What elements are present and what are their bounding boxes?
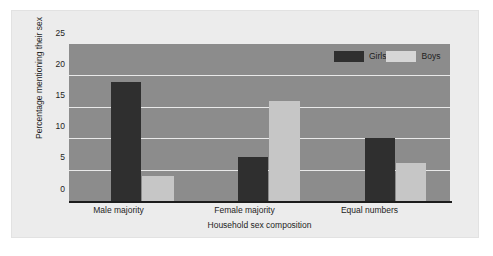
gridline-20 [69,75,450,76]
y-tick-20: 20 [43,60,65,69]
legend-label-boys: Boys [421,51,440,61]
plot-area: Girls Boys [69,44,450,201]
x-tick-equal-numbers: Equal numbers [322,205,417,215]
bar-boys-female-majority [269,101,300,201]
legend-swatch-girls [334,51,364,62]
chart-legend: Girls Boys [334,48,440,64]
legend-swatch-boys [386,51,416,62]
y-tick-10: 10 [43,122,65,131]
bar-girls-equal-numbers [365,138,395,201]
bar-girls-female-majority [238,157,268,201]
bar-boys-equal-numbers [396,163,426,201]
legend-label-girls: Girls [369,51,386,61]
legend-entry-boys: Boys [386,48,440,64]
legend-entry-girls: Girls [334,48,386,64]
bar-boys-male-majority [142,176,174,201]
y-tick-25: 25 [43,29,65,38]
chart-figure: Percentage mentioning their sex 0 5 10 1… [0,0,493,256]
figure-panel: Percentage mentioning their sex 0 5 10 1… [12,11,478,237]
x-tick-female-majority: Female majority [197,205,292,215]
x-axis-line [69,201,452,203]
y-tick-15: 15 [43,91,65,100]
x-tick-male-majority: Male majority [71,205,166,215]
y-tick-5: 5 [43,153,65,162]
x-axis-title: Household sex composition [69,220,450,230]
y-tick-0: 0 [43,185,65,194]
y-axis-tick-labels: 0 5 10 15 20 25 [41,11,65,237]
bar-girls-male-majority [111,82,141,201]
